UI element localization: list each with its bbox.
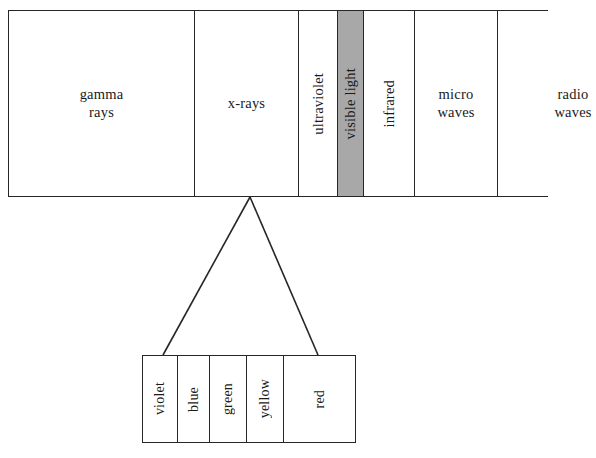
visible-light-segment-label: red <box>313 390 327 408</box>
visible-light-segment-label: yellow <box>258 379 272 418</box>
visible-light-segment-green: green <box>210 356 247 442</box>
spectrum-band-label: x-rays <box>228 95 265 113</box>
spectrum-band-gamma-rays: gamma rays <box>9 11 195 196</box>
visible-light-segment-label: green <box>221 383 235 415</box>
spectrum-band-radio-waves: radio waves <box>498 11 596 196</box>
spectrum-band-x-rays: x-rays <box>195 11 299 196</box>
visible-light-segment-label: violet <box>153 382 167 415</box>
spectrum-band-label: ultraviolet <box>311 73 326 135</box>
spectrum-band-label: micro waves <box>437 86 474 121</box>
spectrum-band-micro-waves: micro waves <box>415 11 498 196</box>
visible-light-segment-blue: blue <box>178 356 210 442</box>
spectrum-band-label: visible light <box>343 68 358 139</box>
spectrum-band-visible-light: visible light <box>338 11 364 196</box>
projection-line-right <box>250 197 318 355</box>
spectrum-band-label: radio waves <box>554 86 591 121</box>
visible-light-segment-yellow: yellow <box>247 356 284 442</box>
visible-light-segment-label: blue <box>187 387 201 412</box>
spectrum-band-label: infrared <box>382 80 397 128</box>
electromagnetic-spectrum-bar: gamma raysx-raysultravioletvisible light… <box>8 10 548 197</box>
visible-light-segment-violet: violet <box>143 356 178 442</box>
projection-line-left <box>163 197 250 355</box>
spectrum-band-ultraviolet: ultraviolet <box>299 11 338 196</box>
spectrum-band-label: gamma rays <box>80 86 124 121</box>
visible-light-segment-red: red <box>284 356 355 442</box>
spectrum-band-infrared: infrared <box>364 11 415 196</box>
visible-light-detail-bar: violetbluegreenyellowred <box>142 355 356 443</box>
